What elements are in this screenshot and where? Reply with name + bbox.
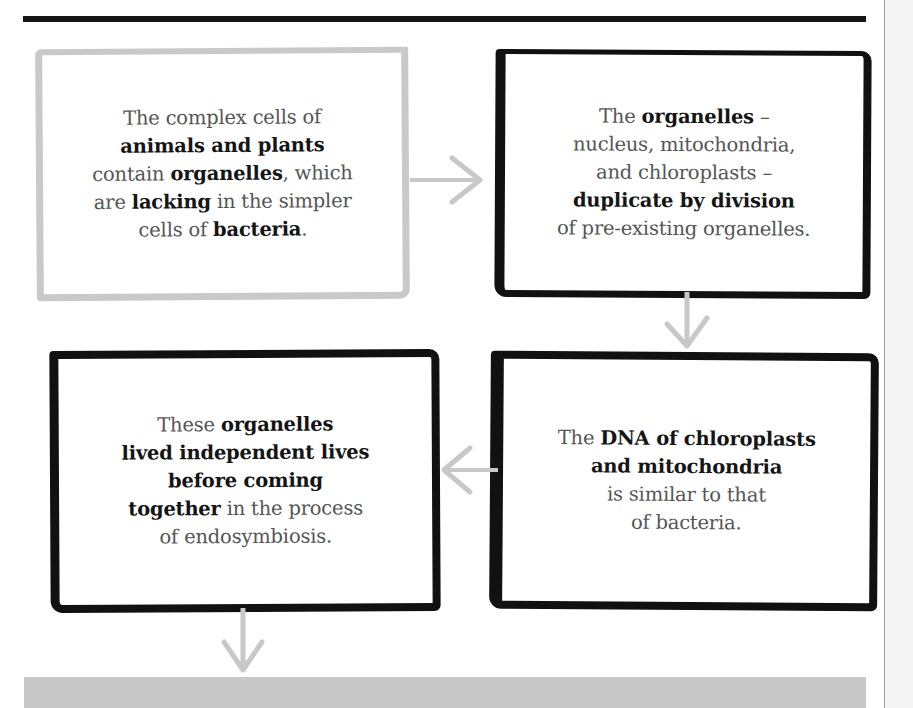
text-line: is similar to that (557, 480, 815, 510)
text-line: cells of bacteria. (93, 215, 354, 245)
box-text: The DNA of chloroplastsand mitochondriai… (557, 424, 816, 538)
text-run: The (558, 426, 601, 449)
bold-run: bacteria (213, 217, 301, 241)
text-run: – (754, 105, 770, 128)
arrow-right-icon (410, 150, 486, 210)
text-run: . (301, 217, 307, 240)
text-line: animals and plants (92, 131, 353, 161)
bold-run: duplicate by division (573, 188, 795, 212)
arrow-down-icon (660, 292, 714, 352)
text-run: , which (283, 161, 353, 184)
text-line: of endosymbiosis. (122, 522, 370, 551)
text-line: The complex cells of (92, 103, 353, 133)
text-line: duplicate by division (557, 186, 810, 215)
text-run: is similar to that (607, 482, 766, 506)
text-line: and chloroplasts – (557, 158, 810, 187)
box-text: The complex cells ofanimals and plantsco… (92, 103, 353, 245)
next-section-band (24, 677, 866, 708)
box-text: The organelles –nucleus, mitochondria,an… (557, 102, 811, 243)
text-run: The (599, 105, 642, 128)
text-run: in the simpler (211, 189, 352, 213)
page-edge (884, 0, 913, 708)
text-line: of bacteria. (557, 508, 815, 538)
bold-run: animals and plants (120, 133, 324, 157)
text-line: The organelles – (558, 102, 811, 131)
bold-run: organelles (170, 161, 283, 185)
text-run: are (94, 190, 132, 213)
text-run: contain (92, 162, 170, 186)
text-run: in the process (221, 496, 363, 520)
text-run: and chloroplasts – (596, 161, 772, 185)
text-line: and mitochondria (558, 452, 816, 482)
text-line: lived independent lives (121, 438, 369, 467)
bold-run: organelles (221, 413, 333, 437)
text-run: nucleus, mitochondria, (573, 132, 795, 156)
text-line: of pre-existing organelles. (557, 214, 810, 243)
box-endosymbiosis: These organelleslived independent livesb… (49, 349, 440, 613)
text-run: The complex cells of (123, 105, 321, 129)
top-rule (23, 16, 866, 22)
bold-run: lacking (132, 190, 211, 214)
text-run: These (157, 413, 221, 436)
box-text: These organelleslived independent livesb… (121, 410, 370, 551)
box-dna-similarity: The DNA of chloroplastsand mitochondriai… (489, 351, 879, 612)
bold-run: together (128, 497, 220, 520)
bold-run: before coming (168, 469, 323, 493)
text-line: together in the process (122, 494, 370, 523)
text-line: nucleus, mitochondria, (557, 130, 810, 159)
arrow-left-icon (438, 442, 498, 498)
text-line: are lacking in the simpler (92, 187, 353, 217)
text-line: before coming (122, 466, 370, 495)
text-run: of bacteria. (631, 511, 742, 535)
text-run: cells of (138, 218, 213, 242)
bold-run: DNA of chloroplasts (600, 426, 816, 451)
text-run: of pre-existing organelles. (557, 216, 810, 240)
text-run: of endosymbiosis. (159, 525, 332, 549)
text-line: These organelles (121, 410, 369, 439)
bold-run: organelles (642, 105, 754, 129)
bold-run: and mitochondria (591, 454, 782, 478)
bold-run: lived independent lives (121, 440, 369, 464)
text-line: contain organelles, which (92, 159, 353, 189)
arrow-down-icon (218, 608, 268, 674)
text-line: The DNA of chloroplasts (558, 424, 816, 454)
box-complex-cells: The complex cells ofanimals and plantsco… (35, 47, 410, 302)
box-organelles-divide: The organelles –nucleus, mitochondria,an… (494, 49, 871, 299)
